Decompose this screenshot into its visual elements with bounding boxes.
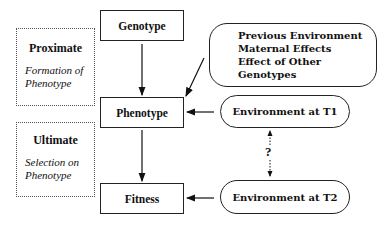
influence-maternal-effects: Maternal Effects	[238, 42, 331, 55]
question-mark-label: ?	[265, 144, 272, 160]
ultimate-subtitle-line-1: Selection on	[25, 156, 94, 169]
ultimate-box: Ultimate Selection on Phenotype	[16, 122, 95, 197]
env-t1-box: Environment at T1	[220, 95, 350, 128]
influences-box: Previous Environment Maternal Effects Ef…	[209, 23, 377, 87]
fitness-label: Fitness	[125, 193, 160, 205]
fitness-box: Fitness	[100, 183, 184, 214]
phenotype-box: Phenotype	[100, 97, 184, 128]
genotype-box: Genotype	[100, 10, 184, 41]
proximate-title: Proximate	[17, 41, 94, 56]
proximate-subtitle-line-2: Phenotype	[25, 77, 94, 90]
env-t2-label: Environment at T2	[232, 192, 337, 203]
proximate-box: Proximate Formation of Phenotype	[16, 28, 95, 106]
influence-previous-environment: Previous Environment	[238, 29, 362, 42]
env-t2-box: Environment at T2	[220, 180, 350, 214]
proximate-subtitle: Formation of Phenotype	[17, 64, 94, 90]
env-t1-label: Environment at T1	[232, 106, 337, 117]
arrow-influences-phenotype	[186, 58, 204, 96]
ultimate-subtitle-line-2: Phenotype	[25, 169, 94, 182]
influence-other-genotypes: Effect of Other Genotypes	[238, 55, 376, 81]
proximate-subtitle-line-1: Formation of	[25, 64, 94, 77]
ultimate-title: Ultimate	[17, 133, 94, 148]
phenotype-label: Phenotype	[116, 107, 168, 119]
genotype-label: Genotype	[118, 20, 165, 32]
ultimate-subtitle: Selection on Phenotype	[17, 156, 94, 182]
